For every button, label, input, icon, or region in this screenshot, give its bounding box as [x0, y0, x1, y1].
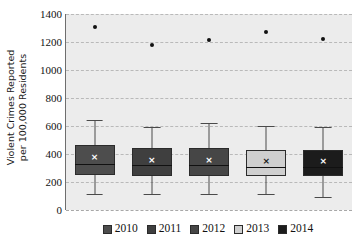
- legend-item-2013[interactable]: 2013: [234, 223, 269, 235]
- outlier-point-2012-0: [207, 38, 211, 42]
- legend-label-2013: 2013: [246, 223, 269, 235]
- legend-label-2010: 2010: [115, 223, 138, 235]
- y-axis-title: Violent Crimes Reported per 100,000 Resi…: [0, 0, 34, 215]
- outlier-point-2014-0: [321, 37, 325, 41]
- y-axis-tick-400: 400: [34, 148, 62, 160]
- y-axis-tick-0: 0: [34, 204, 62, 216]
- whisker-lower-2014: [323, 176, 324, 196]
- whisker-lower-2012: [208, 176, 209, 194]
- outlier-point-2010-0: [93, 25, 97, 29]
- median-line-2013: [246, 167, 286, 168]
- box-series-2010: ×: [66, 14, 123, 210]
- mean-marker-2012: ×: [205, 155, 213, 164]
- legend-label-2011: 2011: [159, 223, 182, 235]
- whisker-upper-2013: [266, 126, 267, 150]
- whisker-lower-2013: [266, 176, 267, 194]
- legend-swatch-2010: [103, 225, 112, 234]
- box-glyph-2011: ×: [132, 14, 172, 210]
- median-line-2014: [303, 167, 343, 168]
- legend-swatch-2012: [190, 225, 199, 234]
- whisker-cap-upper-2012: [201, 123, 218, 124]
- y-axis-tick-800: 800: [34, 92, 62, 104]
- legend-swatch-2011: [147, 225, 156, 234]
- outlier-point-2011-0: [150, 43, 154, 47]
- whisker-upper-2014: [323, 127, 324, 149]
- whisker-upper-2011: [151, 127, 152, 149]
- y-axis-title-line-1: Violent Crimes Reported: [6, 50, 18, 166]
- box-plot-chart: Violent Crimes Reported per 100,000 Resi…: [0, 0, 355, 241]
- box-series-2014: ×: [295, 14, 352, 210]
- y-axis-title-line-2: per 100,000 Residents: [17, 50, 29, 166]
- whisker-cap-lower-2012: [201, 194, 218, 195]
- y-axis-tick-1400: 1400: [34, 8, 62, 20]
- box-series-2013: ×: [238, 14, 295, 210]
- gridline-0: [66, 210, 352, 211]
- mean-marker-2014: ×: [320, 157, 328, 166]
- legend-label-2012: 2012: [202, 223, 225, 235]
- whisker-cap-lower-2011: [143, 194, 160, 195]
- whisker-cap-upper-2013: [258, 126, 275, 127]
- mean-marker-2010: ×: [91, 152, 99, 161]
- y-axis-tick-600: 600: [34, 120, 62, 132]
- box-glyph-2014: ×: [303, 14, 343, 210]
- whisker-upper-2012: [208, 123, 209, 148]
- whisker-cap-lower-2010: [86, 194, 103, 195]
- whisker-lower-2011: [151, 176, 152, 194]
- box-glyph-2013: ×: [246, 14, 286, 210]
- legend-item-2014[interactable]: 2014: [278, 223, 313, 235]
- legend-item-2011[interactable]: 2011: [147, 223, 182, 235]
- whisker-cap-lower-2013: [258, 194, 275, 195]
- mean-marker-2011: ×: [148, 155, 156, 164]
- median-line-2012: [189, 165, 229, 166]
- median-line-2010: [75, 164, 115, 165]
- box-series-2011: ×: [123, 14, 180, 210]
- outlier-point-2013-0: [264, 30, 268, 34]
- whisker-lower-2010: [94, 175, 95, 194]
- median-line-2011: [132, 165, 172, 166]
- legend-swatch-2013: [234, 225, 243, 234]
- plot-area: ×××××: [65, 14, 352, 210]
- box-glyph-2012: ×: [189, 14, 229, 210]
- mean-marker-2013: ×: [262, 157, 270, 166]
- whisker-upper-2010: [94, 120, 95, 145]
- chart-legend: 20102011201220132014: [65, 219, 351, 239]
- y-axis-tick-1200: 1200: [34, 36, 62, 48]
- whisker-cap-upper-2011: [143, 127, 160, 128]
- whisker-cap-lower-2014: [315, 197, 332, 198]
- y-axis-tick-200: 200: [34, 176, 62, 188]
- box-glyph-2010: ×: [75, 14, 115, 210]
- legend-swatch-2014: [278, 225, 287, 234]
- y-axis-tick-1000: 1000: [34, 64, 62, 76]
- box-series-2012: ×: [180, 14, 237, 210]
- y-axis-tick-labels: 1400120010008006004002000: [33, 0, 62, 241]
- legend-item-2010[interactable]: 2010: [103, 223, 138, 235]
- whisker-cap-upper-2014: [315, 127, 332, 128]
- legend-item-2012[interactable]: 2012: [190, 223, 225, 235]
- whisker-cap-upper-2010: [86, 120, 103, 121]
- legend-label-2014: 2014: [290, 223, 313, 235]
